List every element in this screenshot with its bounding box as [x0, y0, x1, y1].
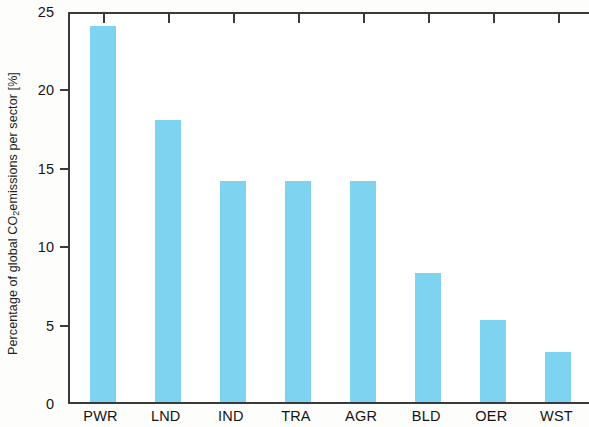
bar — [285, 181, 311, 402]
y-axis-tick-label: 0 — [0, 396, 60, 412]
top-axis-tick-mark — [298, 14, 300, 23]
y-axis-tick-mark — [60, 325, 68, 327]
bar — [480, 320, 506, 402]
top-axis-tick-mark — [168, 14, 170, 23]
y-axis-tick-label: 10 — [0, 239, 60, 255]
bar — [415, 273, 441, 402]
x-axis-tick-label: LND — [151, 408, 181, 424]
y-axis-tick-label: 25 — [0, 4, 60, 20]
x-axis-tick-label: PWR — [83, 408, 117, 424]
y-axis-tick-label: 5 — [0, 318, 60, 334]
y-axis-title-subscript: 2 — [11, 211, 21, 216]
plot-area — [68, 12, 589, 404]
top-axis-tick-mark — [558, 14, 560, 23]
y-axis-tick-mark — [60, 168, 68, 170]
y-axis-tick-label: 20 — [0, 82, 60, 98]
top-axis-tick-mark — [103, 14, 105, 23]
x-axis-tick-label: TRA — [281, 408, 311, 424]
top-axis-tick-mark — [363, 14, 365, 23]
bar-chart-figure: Percentage of global CO2 emissions per s… — [0, 0, 589, 427]
bar — [90, 26, 116, 402]
bar — [350, 181, 376, 402]
y-axis-tick-mark — [60, 89, 68, 91]
top-axis-tick-mark — [233, 14, 235, 23]
bar — [155, 120, 181, 402]
bar — [545, 352, 571, 402]
x-axis-tick-label: AGR — [345, 408, 377, 424]
x-axis-tick-label: WST — [540, 408, 573, 424]
top-axis-tick-mark — [493, 14, 495, 23]
y-axis-title-before: Percentage of global CO — [6, 216, 20, 355]
y-axis-tick-mark — [60, 246, 68, 248]
top-axis-tick-mark — [428, 14, 430, 23]
x-axis-tick-label: IND — [218, 408, 244, 424]
y-axis-tick-label: 15 — [0, 161, 60, 177]
x-axis-tick-label: BLD — [412, 408, 441, 424]
plot-inner — [70, 14, 589, 402]
x-axis-tick-label: OER — [475, 408, 507, 424]
bar — [220, 181, 246, 402]
y-axis-title: Percentage of global CO2 emissions per s… — [0, 0, 26, 427]
